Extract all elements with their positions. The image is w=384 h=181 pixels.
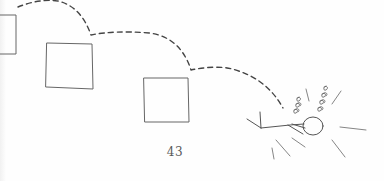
page-number: 43 xyxy=(163,145,187,159)
dashed-trajectory xyxy=(18,0,283,108)
middle-square xyxy=(46,43,93,89)
right-square xyxy=(144,78,189,122)
fallen-stick-figure xyxy=(247,112,323,135)
impact-lines xyxy=(272,89,366,159)
left-square xyxy=(0,15,16,54)
dizzy-spirals xyxy=(294,86,328,113)
book-page: 43 xyxy=(0,0,384,181)
illustration xyxy=(0,0,384,181)
